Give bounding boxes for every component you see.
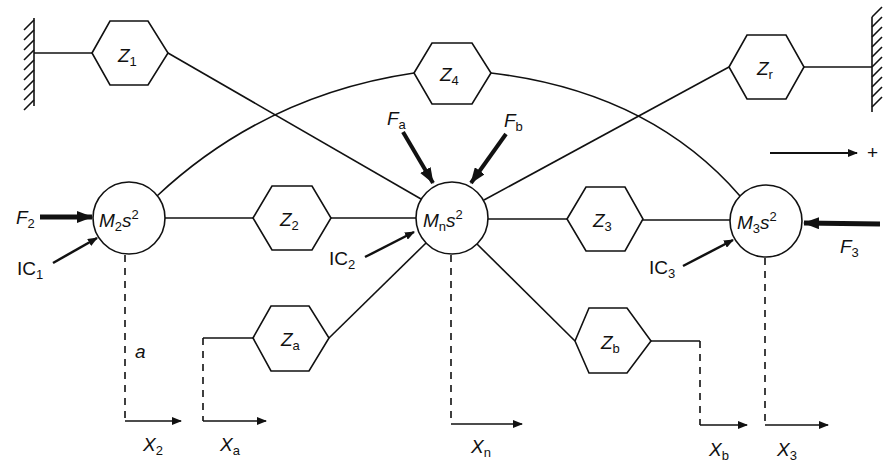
label-fb: Fb bbox=[504, 110, 523, 134]
label-ic1: IC1 bbox=[17, 258, 43, 282]
label-ic3: IC3 bbox=[649, 257, 675, 281]
impedance-z1 bbox=[92, 21, 168, 85]
ic3-arrow bbox=[683, 240, 733, 266]
label-fa: Fa bbox=[387, 108, 407, 132]
force-fa-arrow bbox=[403, 132, 433, 183]
label-f2: F2 bbox=[16, 207, 35, 231]
label-positive-direction: + bbox=[867, 142, 878, 163]
label-x3: X3 bbox=[776, 439, 797, 463]
label-xb: Xb bbox=[708, 439, 729, 463]
displacement-arrows bbox=[125, 421, 828, 425]
left-wall bbox=[24, 18, 34, 110]
label-ic2: IC2 bbox=[329, 248, 355, 272]
label-x2: X2 bbox=[142, 434, 163, 458]
mechanical-network-diagram: Z1 Z4 Zr Z2 Z3 Za Zb M2s2 Mns2 M3s2 F2 F… bbox=[0, 0, 893, 474]
ic2-arrow bbox=[365, 232, 414, 257]
ic1-arrow bbox=[53, 238, 97, 263]
label-a: a bbox=[135, 341, 146, 362]
label-xn: Xn bbox=[470, 436, 491, 460]
right-wall bbox=[872, 7, 882, 112]
force-fb-arrow bbox=[471, 134, 506, 183]
force-f3-arrow bbox=[804, 223, 880, 224]
label-f3: F3 bbox=[840, 236, 859, 260]
label-xa: Xa bbox=[219, 434, 241, 458]
